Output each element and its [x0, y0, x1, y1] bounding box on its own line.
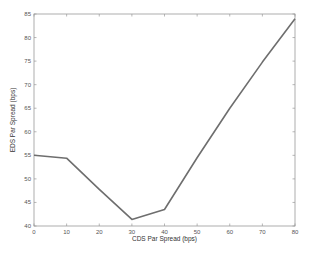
x-axis-label: CDS Par Spread (bps) — [132, 235, 197, 243]
y-axis-label: EDS Par Spread (bps) — [9, 88, 17, 153]
series-line — [34, 19, 295, 220]
x-tick-label: 10 — [63, 229, 70, 235]
x-tick-label: 0 — [32, 229, 36, 235]
x-tick-label: 70 — [259, 229, 266, 235]
plot-frame — [34, 14, 295, 226]
y-axis-tick-labels: 40455055606570758085 — [24, 11, 31, 229]
plot-area — [34, 14, 295, 226]
y-tick-label: 70 — [24, 82, 31, 88]
axis-ticks — [34, 14, 295, 226]
line-chart: 01020304050607080 40455055606570758085 C… — [0, 0, 312, 254]
x-tick-label: 20 — [96, 229, 103, 235]
y-tick-label: 55 — [24, 152, 31, 158]
y-tick-label: 75 — [24, 58, 31, 64]
y-tick-label: 65 — [24, 105, 31, 111]
x-tick-label: 60 — [226, 229, 233, 235]
y-tick-label: 60 — [24, 129, 31, 135]
y-tick-label: 40 — [24, 223, 31, 229]
y-tick-label: 45 — [24, 199, 31, 205]
y-tick-label: 85 — [24, 11, 31, 17]
x-tick-label: 80 — [292, 229, 299, 235]
y-tick-label: 80 — [24, 35, 31, 41]
y-tick-label: 50 — [24, 176, 31, 182]
